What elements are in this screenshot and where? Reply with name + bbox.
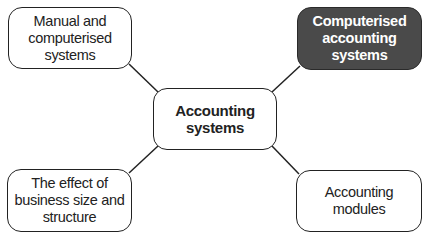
node-label: Accounting systems <box>175 102 255 136</box>
connector-bottom-right <box>272 146 299 174</box>
node-label: Accounting modules <box>325 184 394 218</box>
connector-top-right <box>272 66 300 92</box>
node-computerised-accounting-systems: Computerised accounting systems <box>297 7 422 70</box>
node-manual-and-computerised-systems: Manual and computerised systems <box>8 7 132 69</box>
connector-bottom-left <box>129 146 158 173</box>
node-effect-of-business-size: The effect of business size and structur… <box>7 169 132 232</box>
node-accounting-systems-center: Accounting systems <box>153 88 277 150</box>
connector-top-left <box>129 64 158 92</box>
node-label: Computerised accounting systems <box>313 13 407 64</box>
node-label: Manual and computerised systems <box>28 13 111 64</box>
node-accounting-modules: Accounting modules <box>296 170 422 232</box>
node-label: The effect of business size and structur… <box>14 175 124 226</box>
